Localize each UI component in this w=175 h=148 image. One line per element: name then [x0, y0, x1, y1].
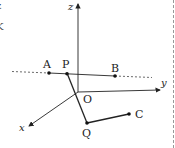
point-a-label: A: [42, 58, 52, 71]
x-axis-label: x: [19, 122, 25, 133]
y-axis: [78, 90, 160, 92]
z-axis-label: z: [67, 1, 74, 12]
segment-ab: [49, 73, 115, 76]
point-p: [65, 72, 69, 76]
clipped-text-fragment-2: K: [0, 21, 4, 32]
line-ab-extension-right: [115, 76, 152, 78]
point-a: [47, 71, 51, 75]
point-b-label: B: [111, 62, 119, 75]
diagram-canvas: z K z y x A P B O Q C: [0, 0, 175, 148]
clipped-text-fragment-1: z: [0, 0, 1, 11]
point-q-label: Q: [82, 127, 91, 140]
origin-label: O: [83, 93, 92, 106]
line-ab-extension-left: [12, 72, 49, 74]
point-p-label: P: [62, 58, 70, 71]
segment-qc: [87, 114, 129, 123]
point-c: [127, 112, 131, 116]
x-axis: [29, 92, 78, 126]
y-axis-label: y: [160, 77, 167, 88]
point-c-label: C: [135, 108, 143, 121]
point-q: [85, 121, 89, 125]
